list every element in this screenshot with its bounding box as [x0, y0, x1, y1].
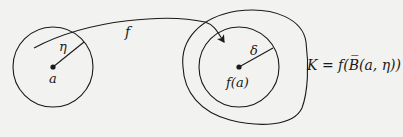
point-a-label: a	[49, 71, 57, 86]
eta-radius-line	[53, 42, 84, 67]
point-fa-label: f(a)	[225, 75, 249, 90]
map-f-label: f	[124, 24, 133, 40]
point-a-dot	[50, 64, 55, 69]
point-fa-dot	[236, 64, 241, 69]
delta-label: δ	[250, 43, 258, 58]
eta-label: η	[59, 39, 67, 54]
mapping-diagram: a η f f(a) δ K = f(B̅(a, η))	[0, 0, 403, 137]
image-set-k-label: K = f(B̅(a, η))	[306, 55, 401, 73]
